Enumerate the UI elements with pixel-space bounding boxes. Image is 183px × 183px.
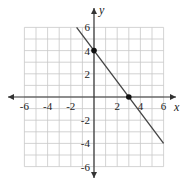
- x-tick-label: -4: [43, 100, 53, 112]
- x-tick-label: -2: [66, 100, 75, 112]
- coordinate-plane: -6-4-2246-6-4-2246 x y: [0, 0, 183, 183]
- y-axis-label: y: [98, 3, 105, 17]
- y-tick-label: -4: [81, 137, 91, 149]
- y-tick-label: -2: [81, 114, 90, 126]
- y-tick-label: 2: [85, 68, 91, 80]
- x-tick-label: -6: [20, 100, 30, 112]
- y-tick-label: -6: [81, 161, 91, 173]
- intercept-point: [126, 94, 132, 100]
- y-axis-down-arrow-icon: [91, 172, 97, 178]
- y-axis-up-arrow-icon: [91, 8, 97, 14]
- x-axis-label: x: [173, 100, 180, 114]
- intercept-point: [91, 48, 97, 54]
- y-tick-label: 6: [85, 21, 91, 33]
- axes: [8, 8, 176, 178]
- x-tick-label: 2: [114, 100, 120, 112]
- x-axis-left-arrow-icon: [8, 94, 14, 100]
- x-tick-label: 6: [161, 100, 167, 112]
- y-tick-label: 4: [85, 45, 91, 57]
